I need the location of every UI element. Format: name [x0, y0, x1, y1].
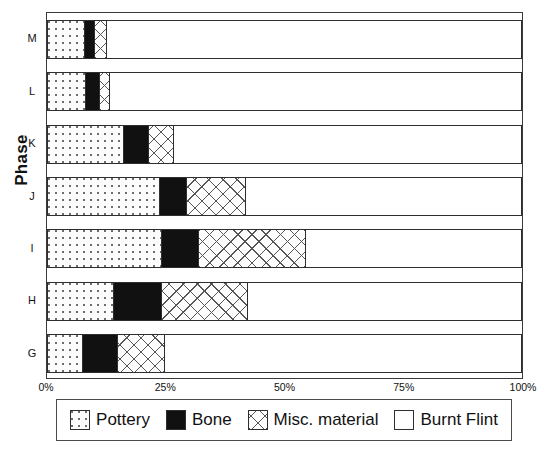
- bar-segment-misc-material: [118, 335, 165, 372]
- legend-entry-pottery: Pottery: [70, 410, 150, 430]
- bar-segment-burnt-flint: [174, 126, 521, 163]
- legend-label: Misc. material: [274, 410, 379, 430]
- bar-row-i: [47, 229, 522, 268]
- bar-segment-misc-material: [199, 230, 306, 267]
- bar-segment-burnt-flint: [110, 73, 521, 110]
- legend-label: Burnt Flint: [420, 410, 497, 430]
- x-tick-label-0: 0%: [38, 381, 53, 393]
- bar-segment-pottery: [48, 21, 85, 58]
- bar-segment-pottery: [48, 126, 124, 163]
- bar-row-k: [47, 125, 522, 164]
- bar-segment-misc-material: [162, 283, 248, 320]
- y-tick-label-l: L: [22, 85, 42, 97]
- bar-row-g: [47, 334, 522, 373]
- legend-entry-bone: Bone: [166, 410, 232, 430]
- stacked-bar: [47, 177, 522, 216]
- stacked-bar: [47, 229, 522, 268]
- bar-segment-misc-material: [149, 126, 174, 163]
- bar-segment-bone: [86, 73, 100, 110]
- bar-segment-pottery: [48, 335, 83, 372]
- bar-row-m: [47, 20, 522, 59]
- y-axis-title: Phase: [12, 100, 32, 220]
- bar-segment-burnt-flint: [306, 230, 521, 267]
- legend-entry-misc-material: Misc. material: [248, 410, 379, 430]
- bar-segment-pottery: [48, 283, 114, 320]
- y-tick-label-g: G: [22, 347, 42, 359]
- bar-segment-pottery: [48, 178, 160, 215]
- bar-row-j: [47, 177, 522, 216]
- bar-segment-burnt-flint: [165, 335, 521, 372]
- chart-legend: PotteryBoneMisc. materialBurnt Flint: [56, 399, 512, 441]
- stacked-bar: [47, 20, 522, 59]
- bar-segment-bone: [124, 126, 149, 163]
- bar-segment-misc-material: [100, 73, 111, 110]
- y-tick-label-h: H: [22, 294, 42, 306]
- bar-segment-bone: [114, 283, 162, 320]
- bar-segment-burnt-flint: [248, 283, 521, 320]
- bar-segment-bone: [160, 178, 187, 215]
- plot-area: [46, 12, 523, 379]
- bone-swatch: [166, 410, 186, 430]
- misc-material-swatch: [248, 410, 268, 430]
- bar-segment-burnt-flint: [107, 21, 521, 58]
- bar-segment-bone: [162, 230, 199, 267]
- x-tick-label-75: 75%: [393, 381, 414, 393]
- stacked-bar: [47, 72, 522, 111]
- x-tick-label-25: 25%: [155, 381, 176, 393]
- legend-label: Pottery: [96, 410, 150, 430]
- bar-segment-bone: [85, 21, 95, 58]
- stacked-bar: [47, 125, 522, 164]
- legend-label: Bone: [192, 410, 232, 430]
- bar-segment-burnt-flint: [246, 178, 521, 215]
- bar-segment-pottery: [48, 73, 86, 110]
- bar-segment-bone: [83, 335, 118, 372]
- pottery-swatch: [70, 410, 90, 430]
- x-tick-label-50: 50%: [274, 381, 295, 393]
- y-tick-label-i: I: [22, 242, 42, 254]
- x-tick-label-100: 100%: [510, 381, 537, 393]
- y-tick-label-j: J: [22, 190, 42, 202]
- stacked-bar: [47, 334, 522, 373]
- bar-segment-misc-material: [187, 178, 246, 215]
- stacked-bar: [47, 282, 522, 321]
- y-tick-label-m: M: [22, 32, 42, 44]
- burnt-flint-swatch: [394, 410, 414, 430]
- y-tick-label-k: K: [22, 137, 42, 149]
- stacked-bar-chart-figure: Phase MLKJIHG 0%25%50%75%100% PotteryBon…: [0, 0, 546, 460]
- bar-segment-pottery: [48, 230, 162, 267]
- bar-row-l: [47, 72, 522, 111]
- bar-row-h: [47, 282, 522, 321]
- bar-segment-misc-material: [95, 21, 107, 58]
- legend-entry-burnt-flint: Burnt Flint: [394, 410, 497, 430]
